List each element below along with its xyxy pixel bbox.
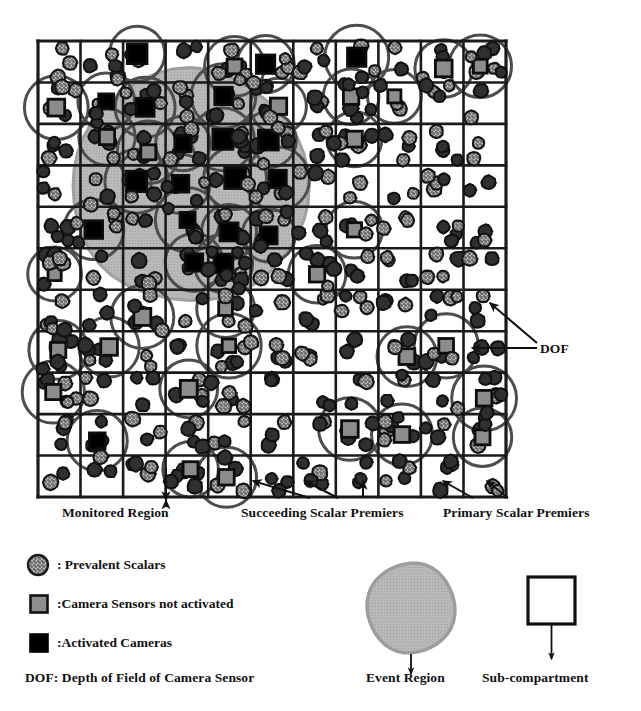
callout-dof: DOF bbox=[540, 341, 569, 357]
gray-square-icon bbox=[28, 593, 50, 615]
callout-monitored-region: Monitored Region bbox=[62, 505, 169, 521]
legend-shapes bbox=[367, 563, 575, 674]
legend-item-prevalent-scalars: : Prevalent Scalars bbox=[26, 553, 165, 577]
legend-label-sub-compartment: Sub-compartment bbox=[482, 670, 589, 686]
legend-label-prevalent-scalars: : Prevalent Scalars bbox=[57, 557, 165, 573]
legend-label-activated-cameras: :Activated Cameras bbox=[57, 635, 172, 651]
legend-dof-definition: DOF: Depth of Field of Camera Sensor bbox=[25, 670, 254, 686]
legend-label-event-region: Event Region bbox=[366, 670, 445, 686]
callout-succeeding-scalar-premiers: Succeeding Scalar Premiers bbox=[241, 505, 404, 521]
black-square-icon bbox=[28, 632, 50, 654]
legend-label-camera-not-activated: :Camera Sensors not activated bbox=[57, 596, 234, 612]
hatched-circle-icon bbox=[26, 553, 50, 577]
legend-item-activated-cameras: :Activated Cameras bbox=[28, 632, 172, 654]
legend-item-camera-not-activated: :Camera Sensors not activated bbox=[28, 593, 234, 615]
callout-primary-scalar-premiers: Primary Scalar Premiers bbox=[443, 505, 590, 521]
